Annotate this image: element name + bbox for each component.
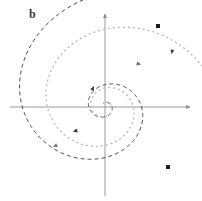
direction-arrowheads-group xyxy=(53,49,174,147)
plot-canvas xyxy=(0,0,202,201)
trajectories-group xyxy=(20,0,202,159)
dashed-spiral-start-marker xyxy=(156,24,160,28)
start-markers-group xyxy=(156,24,170,169)
dotted-spiral-direction-arrow xyxy=(53,143,58,147)
dashed-spiral-direction-arrow xyxy=(170,49,174,54)
dashed-spiral-direction-arrow xyxy=(73,129,78,133)
dashed-spiral-curve xyxy=(20,0,166,159)
phase-portrait-figure: b xyxy=(0,0,202,201)
dotted-spiral-start-marker xyxy=(166,165,170,169)
dashed-spiral-direction-arrow xyxy=(90,86,94,91)
dotted-spiral-direction-arrow xyxy=(136,62,141,66)
panel-label: b xyxy=(29,8,36,20)
axes-group xyxy=(10,14,190,196)
